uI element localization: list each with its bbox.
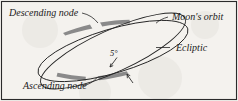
descending-node-label: Descending node (8, 7, 79, 18)
moons-orbit-label: Moon's orbit (171, 11, 224, 22)
ascending-node-label: Ascending node (22, 80, 87, 91)
inclination-angle-label: 5° (110, 48, 118, 58)
ecliptic-label: Ecliptic (175, 42, 208, 53)
diagram-canvas: Descending node Moon's orbit Ecliptic As… (0, 0, 238, 101)
moon-orbit-diagram: Descending node Moon's orbit Ecliptic As… (0, 0, 238, 101)
